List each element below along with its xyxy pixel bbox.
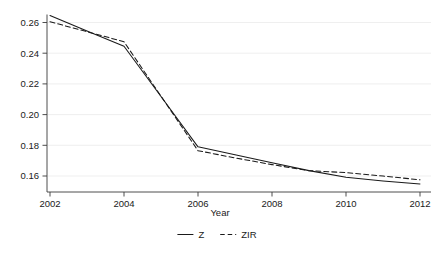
y-tick-label-3: 0.22	[21, 78, 40, 89]
y-tick-label-0: 0.16	[21, 170, 40, 181]
x-tick-label-3: 2008	[261, 198, 282, 209]
chart-figure: 0.160.180.200.220.240.26 200220042006200…	[0, 0, 432, 256]
legend-label-zir: ZIR	[241, 229, 256, 240]
x-tick-label-5: 2012	[409, 198, 430, 209]
y-tick-label-1: 0.18	[21, 140, 40, 151]
x-axis-title: Year	[210, 207, 229, 218]
x-tick-label-1: 2004	[113, 198, 134, 209]
y-tick-label-4: 0.24	[21, 48, 40, 59]
x-tick-label-0: 2002	[39, 198, 60, 209]
line-chart: 0.160.180.200.220.240.26 200220042006200…	[0, 0, 432, 256]
x-tick-label-4: 2010	[335, 198, 356, 209]
y-tick-label-5: 0.26	[21, 17, 40, 28]
x-tick-label-2: 2006	[187, 198, 208, 209]
legend-label-z: Z	[198, 229, 204, 240]
y-tick-label-2: 0.20	[21, 109, 40, 120]
